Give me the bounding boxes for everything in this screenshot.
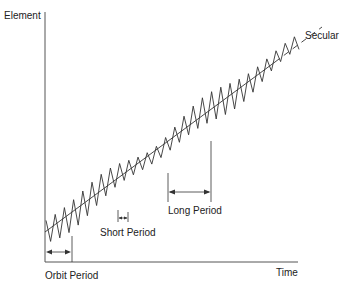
y-axis-label: Element (4, 10, 41, 21)
long-period-marker (168, 141, 211, 202)
short-period-label: Short Period (100, 227, 156, 238)
short-period-marker (118, 210, 128, 222)
long-period-label: Long Period (168, 205, 222, 216)
orbit-period-label: Orbit Period (45, 270, 98, 281)
orbital-elements-diagram (0, 0, 345, 286)
secular-label: Secular (305, 30, 339, 41)
x-axis-label: Time (276, 267, 298, 278)
